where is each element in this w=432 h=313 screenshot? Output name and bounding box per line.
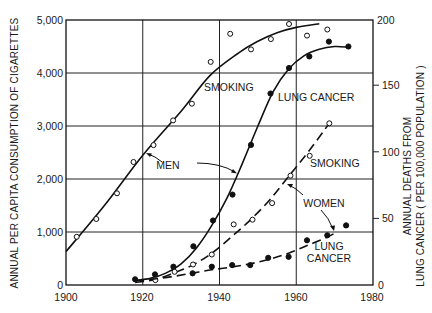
data-point-women-lung-cancer bbox=[266, 255, 271, 260]
data-point-men-lung-cancer bbox=[307, 54, 312, 59]
series-line-men-smoking bbox=[66, 24, 319, 252]
data-point-men-smoking bbox=[305, 33, 310, 38]
data-point-women-smoking bbox=[327, 121, 332, 126]
x-tick-label: 1980 bbox=[360, 291, 384, 303]
data-point-women-smoking bbox=[250, 217, 255, 222]
data-point-men-lung-cancer bbox=[248, 142, 253, 147]
data-point-men-smoking bbox=[115, 191, 120, 196]
annotation-women: WOMEN bbox=[303, 197, 344, 209]
data-point-men-smoking bbox=[208, 59, 213, 64]
y-tick-label: 3,000 bbox=[37, 120, 63, 132]
data-point-men-smoking bbox=[249, 47, 254, 52]
series-line-women-smoking bbox=[135, 123, 329, 282]
data-point-men-lung-cancer bbox=[152, 272, 157, 277]
data-point-men-smoking bbox=[171, 118, 176, 123]
women-arrowhead-lung bbox=[330, 226, 335, 232]
data-point-men-lung-cancer bbox=[326, 39, 331, 44]
data-point-men-lung-cancer bbox=[346, 44, 351, 49]
men-arrowhead-lung bbox=[231, 169, 237, 174]
y-tick-label: 1,000 bbox=[37, 226, 63, 238]
data-point-men-smoking bbox=[228, 31, 233, 36]
annotation-men-lung-cancer: LUNG CANCER bbox=[278, 91, 355, 103]
x-axis-ticks: 1900 1920 1940 1960 1980 bbox=[54, 291, 384, 303]
data-point-women-smoking bbox=[172, 269, 177, 274]
data-point-men-smoking bbox=[189, 101, 194, 106]
data-point-women-smoking bbox=[209, 252, 214, 257]
data-point-women-smoking bbox=[191, 262, 196, 267]
y-axis-left-ticks: 0 1,000 2,000 3,000 4,000 5,000 bbox=[37, 14, 63, 291]
data-point-men-lung-cancer bbox=[210, 218, 215, 223]
data-point-men-smoking bbox=[325, 27, 330, 32]
x-tick-label: 1920 bbox=[130, 291, 154, 303]
data-point-women-lung-cancer bbox=[248, 263, 253, 268]
series bbox=[66, 22, 351, 283]
y-tick-label: 0 bbox=[57, 279, 63, 291]
men-arrowhead-smoking bbox=[146, 153, 152, 157]
data-point-men-lung-cancer bbox=[230, 192, 235, 197]
data-point-men-lung-cancer bbox=[191, 244, 196, 249]
y2-tick-label: 100 bbox=[382, 146, 400, 158]
y2-tick-label: 200 bbox=[377, 14, 395, 26]
y2-tick-label: 0 bbox=[378, 279, 384, 291]
x-tick-label: 1960 bbox=[284, 291, 308, 303]
y-tick-label: 2,000 bbox=[37, 173, 63, 185]
y2-tick-label: 150 bbox=[382, 79, 400, 91]
y2-tick-label: 50 bbox=[382, 212, 394, 224]
data-point-men-lung-cancer bbox=[268, 91, 273, 96]
data-point-men-smoking bbox=[268, 37, 273, 42]
data-point-women-smoking bbox=[288, 173, 293, 178]
data-point-women-lung-cancer bbox=[344, 223, 349, 228]
data-point-men-lung-cancer bbox=[171, 264, 176, 269]
data-point-women-lung-cancer bbox=[286, 254, 291, 259]
annotation-women-lung: LUNG bbox=[314, 240, 343, 252]
y-axis-left-label: ANNUAL PER CAPITA CONSUMPTION OF CIGARET… bbox=[9, 17, 20, 288]
data-point-women-lung-cancer bbox=[230, 263, 235, 268]
series-men-smoking bbox=[66, 22, 330, 252]
data-point-women-smoking bbox=[231, 222, 236, 227]
series-women-smoking bbox=[135, 121, 332, 283]
data-point-women-lung-cancer bbox=[304, 238, 309, 243]
data-point-men-smoking bbox=[287, 22, 292, 27]
annotation-women-smoking: SMOKING bbox=[310, 157, 360, 169]
annotation-men-smoking: SMOKING bbox=[204, 81, 254, 93]
data-point-women-smoking bbox=[270, 201, 275, 206]
y-axis-right-label-line2: LUNG CANCER ( PER 100,000 POPULATION ) bbox=[415, 65, 426, 286]
y-axis-right-label-line1: ANNUAL DEATHS FROM bbox=[402, 117, 413, 236]
data-point-men-lung-cancer bbox=[286, 65, 291, 70]
data-point-women-lung-cancer bbox=[325, 233, 330, 238]
data-point-men-smoking bbox=[94, 217, 99, 222]
x-tick-label: 1900 bbox=[54, 291, 78, 303]
men-arrow-to-lung bbox=[197, 163, 235, 172]
y-axis-right-ticks: 0 50 100 150 200 bbox=[373, 14, 400, 291]
data-point-men-smoking bbox=[151, 143, 156, 148]
annotation-women-cancer: CANCER bbox=[307, 252, 352, 264]
x-tick-label: 1940 bbox=[207, 291, 231, 303]
data-point-men-smoking bbox=[131, 160, 136, 165]
chart: 1900 1920 1940 1960 1980 0 1,000 2,000 3… bbox=[0, 0, 432, 313]
data-point-men-smoking bbox=[74, 234, 79, 239]
data-point-women-lung-cancer bbox=[190, 271, 195, 276]
y-tick-label: 5,000 bbox=[37, 14, 63, 26]
data-point-women-lung-cancer bbox=[209, 264, 214, 269]
y-tick-label: 4,000 bbox=[37, 67, 63, 79]
